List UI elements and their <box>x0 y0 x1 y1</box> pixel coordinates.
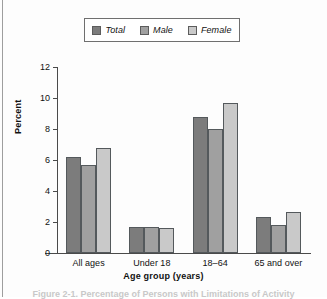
chart-legend: Total Male Female <box>84 18 240 42</box>
y-tick-label: 2 <box>36 217 50 227</box>
bar-total-under-18 <box>129 227 144 253</box>
legend-swatch-male <box>140 26 149 35</box>
x-category-label: 65 and over <box>255 258 303 268</box>
y-tick-label: 10 <box>36 93 50 103</box>
y-tick-mark <box>53 160 57 161</box>
x-category-label: Under 18 <box>133 258 170 268</box>
x-axis-line <box>45 253 311 254</box>
bar-male-under-18 <box>144 227 159 253</box>
x-category-label: All ages <box>73 258 105 268</box>
bar-total-all-ages <box>66 157 81 253</box>
bar-male-18-64 <box>208 129 223 253</box>
legend-label-female: Female <box>201 25 232 35</box>
legend-swatch-female <box>188 26 197 35</box>
page-edge-rule <box>2 0 3 297</box>
x-axis-title: Age group (years) <box>0 271 327 281</box>
legend-label-total: Total <box>105 25 125 35</box>
y-tick-mark <box>53 98 57 99</box>
bar-male-all-ages <box>81 165 96 253</box>
y-tick-label: 0 <box>36 248 50 258</box>
y-tick-10: 10 <box>36 93 57 103</box>
bar-female-65-and-over <box>286 212 301 253</box>
y-axis-title: Percent <box>13 100 23 134</box>
y-tick-mark <box>53 67 57 68</box>
legend-label-male: Male <box>153 25 173 35</box>
bar-total-65-and-over <box>256 217 271 253</box>
bar-male-65-and-over <box>271 225 286 253</box>
y-tick-label: 4 <box>36 186 50 196</box>
bar-total-18-64 <box>193 117 208 253</box>
y-tick-mark <box>53 191 57 192</box>
x-category-label: 18–64 <box>203 258 228 268</box>
y-tick-8: 8 <box>36 124 57 134</box>
legend-item-female: Female <box>188 25 232 35</box>
legend-swatch-total <box>92 26 101 35</box>
figure-caption: Figure 2-1. Percentage of Persons with L… <box>0 289 327 299</box>
y-tick-mark <box>53 222 57 223</box>
y-tick-12: 12 <box>36 62 57 72</box>
bar-female-under-18 <box>159 228 174 253</box>
y-tick-2: 2 <box>36 217 57 227</box>
y-tick-label: 8 <box>36 124 50 134</box>
y-tick-4: 4 <box>36 186 57 196</box>
bar-female-18-64 <box>223 103 238 253</box>
y-tick-label: 12 <box>36 62 50 72</box>
y-tick-mark <box>53 253 57 254</box>
y-tick-label: 6 <box>36 155 50 165</box>
bar-female-all-ages <box>96 148 111 253</box>
plot-area: 024681012 <box>57 67 310 253</box>
y-tick-mark <box>53 129 57 130</box>
legend-item-total: Total <box>92 25 125 35</box>
y-tick-0: 0 <box>36 248 57 258</box>
y-tick-6: 6 <box>36 155 57 165</box>
legend-item-male: Male <box>140 25 173 35</box>
